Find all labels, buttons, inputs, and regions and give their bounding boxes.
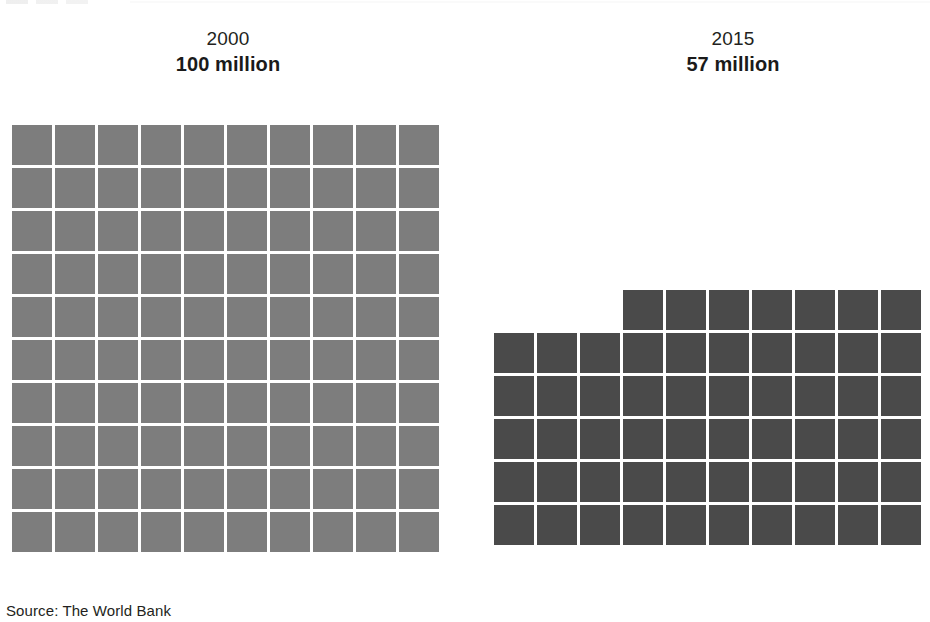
waffle-cell xyxy=(12,168,52,208)
waffle-cell xyxy=(227,297,267,337)
waffle-cell xyxy=(270,254,310,294)
waffle-cell xyxy=(752,419,792,459)
waffle-cell xyxy=(227,254,267,294)
waffle-cell xyxy=(184,469,224,509)
waffle-cell xyxy=(623,505,663,545)
waffle-cell xyxy=(623,419,663,459)
waffle-cell xyxy=(752,462,792,502)
waffle-cell xyxy=(313,512,353,552)
waffle-cell xyxy=(795,333,835,373)
waffle-cell xyxy=(399,340,439,380)
waffle-cell xyxy=(795,290,835,330)
waffle-cell xyxy=(580,462,620,502)
waffle-cell xyxy=(227,340,267,380)
waffle-cell xyxy=(98,211,138,251)
panel-2000-year-label: 2000 xyxy=(118,26,338,51)
waffle-cell xyxy=(313,125,353,165)
waffle-cell xyxy=(12,469,52,509)
waffle-cell xyxy=(881,462,921,502)
waffle-cell xyxy=(356,168,396,208)
waffle-cell xyxy=(12,297,52,337)
waffle-cell xyxy=(494,462,534,502)
waffle-cell xyxy=(227,469,267,509)
waffle-cell xyxy=(795,462,835,502)
waffle-cell xyxy=(227,383,267,423)
waffle-cell xyxy=(270,383,310,423)
waffle-cell xyxy=(12,125,52,165)
waffle-cell xyxy=(141,168,181,208)
waffle-cell xyxy=(12,512,52,552)
waffle-cell xyxy=(270,211,310,251)
waffle-cell xyxy=(184,426,224,466)
waffle-cell xyxy=(399,125,439,165)
waffle-cell xyxy=(141,254,181,294)
waffle-cell xyxy=(666,290,706,330)
waffle-cell xyxy=(98,168,138,208)
waffle-cell xyxy=(537,419,577,459)
waffle-cell xyxy=(881,376,921,416)
waffle-cell xyxy=(356,383,396,423)
waffle-cell xyxy=(270,469,310,509)
waffle-cell xyxy=(184,512,224,552)
waffle-cell xyxy=(494,333,534,373)
waffle-cell xyxy=(666,505,706,545)
waffle-cell xyxy=(399,211,439,251)
waffle-cell xyxy=(580,333,620,373)
waffle-cell xyxy=(881,419,921,459)
waffle-cell xyxy=(752,290,792,330)
waffle-cell xyxy=(98,469,138,509)
waffle-cell xyxy=(838,290,878,330)
waffle-cell xyxy=(537,462,577,502)
waffle-cell xyxy=(12,211,52,251)
waffle-cell xyxy=(838,462,878,502)
waffle-cell xyxy=(313,383,353,423)
waffle-cell xyxy=(55,211,95,251)
waffle-cell xyxy=(399,469,439,509)
waffle-cell xyxy=(494,419,534,459)
waffle-cell xyxy=(356,426,396,466)
waffle-cell xyxy=(537,376,577,416)
waffle-cell xyxy=(184,340,224,380)
waffle-cell xyxy=(184,383,224,423)
waffle-cell xyxy=(623,333,663,373)
waffle-cell xyxy=(12,426,52,466)
waffle-cell xyxy=(227,125,267,165)
waffle-cell xyxy=(623,290,663,330)
waffle-cell xyxy=(184,254,224,294)
waffle-cell xyxy=(752,333,792,373)
waffle-cell xyxy=(270,125,310,165)
waffle-cell xyxy=(12,254,52,294)
waffle-cell xyxy=(184,297,224,337)
waffle-cell xyxy=(666,419,706,459)
waffle-cell xyxy=(55,512,95,552)
waffle-cell xyxy=(356,125,396,165)
waffle-cell xyxy=(55,383,95,423)
waffle-cell xyxy=(313,211,353,251)
waffle-cell xyxy=(399,512,439,552)
waffle-cell xyxy=(709,419,749,459)
waffle-cell xyxy=(141,125,181,165)
waffle-cell xyxy=(881,505,921,545)
waffle-cell xyxy=(666,462,706,502)
waffle-cell xyxy=(313,297,353,337)
panel-2015-year-label: 2015 xyxy=(623,26,843,51)
waffle-cell xyxy=(356,512,396,552)
waffle-cell xyxy=(141,512,181,552)
waffle-cell xyxy=(98,426,138,466)
waffle-cell xyxy=(752,376,792,416)
waffle-cell xyxy=(399,254,439,294)
waffle-cell xyxy=(55,426,95,466)
waffle-cell xyxy=(227,426,267,466)
waffle-cell xyxy=(356,340,396,380)
waffle-cell xyxy=(356,297,396,337)
waffle-cell xyxy=(666,333,706,373)
waffle-cell xyxy=(838,376,878,416)
waffle-cell xyxy=(98,512,138,552)
waffle-cell xyxy=(580,419,620,459)
clipped-top-rule xyxy=(130,1,930,3)
waffle-cell xyxy=(55,254,95,294)
panel-2015-value-label: 57 million xyxy=(623,51,843,77)
waffle-cell xyxy=(12,340,52,380)
waffle-cell-spacer xyxy=(494,290,534,330)
waffle-cell xyxy=(270,168,310,208)
